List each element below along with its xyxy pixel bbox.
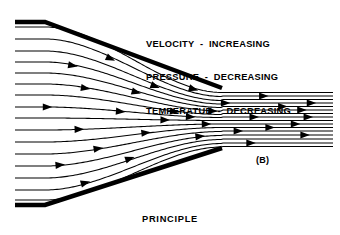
flow-arrowhead <box>246 139 256 146</box>
flow-arrowhead <box>68 61 78 68</box>
flow-arrowhead <box>291 120 301 127</box>
panel-label: (B) <box>256 155 269 165</box>
streamline <box>15 143 333 190</box>
flow-arrowhead <box>124 157 134 164</box>
flow-arrowhead <box>74 126 84 133</box>
annotation-temperature: TEMPERATUE - DECREASING <box>146 106 291 117</box>
figure-root: VELOCITY - INCREASING PRESSURE - DECREAS… <box>0 0 340 235</box>
flow-arrowhead <box>93 146 103 153</box>
flow-arrowhead <box>80 180 90 187</box>
annotation-velocity: VELOCITY - INCREASING <box>146 39 291 50</box>
flow-arrowhead <box>307 99 317 106</box>
annotation-pressure: PRESSURE - DECREASING <box>146 72 291 83</box>
flow-arrowhead <box>304 113 314 120</box>
streamline <box>15 139 333 178</box>
flow-arrowhead <box>297 106 307 113</box>
streamline <box>15 147 333 201</box>
flow-property-annotations: VELOCITY - INCREASING PRESSURE - DECREAS… <box>146 16 291 140</box>
flow-arrowhead <box>43 103 53 110</box>
flow-arrowhead <box>80 84 90 91</box>
flow-arrowhead <box>300 131 310 138</box>
nozzle-wall-bottom <box>15 148 222 205</box>
figure-caption: PRINCIPLE <box>0 214 340 224</box>
flow-arrowhead <box>131 87 141 94</box>
